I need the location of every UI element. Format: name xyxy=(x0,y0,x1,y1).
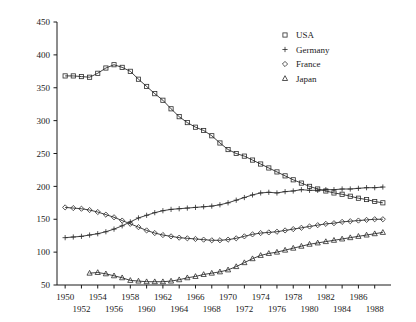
chart-legend: USAGermanyFranceJapan xyxy=(282,30,330,84)
x-tick-label: 1954 xyxy=(89,292,108,302)
legend-item-france[interactable]: France xyxy=(282,59,320,69)
y-tick-label: 50 xyxy=(41,280,51,290)
x-tick-label: 1960 xyxy=(138,304,157,314)
series-path xyxy=(65,187,383,238)
series-germany xyxy=(63,184,386,240)
series-japan xyxy=(87,230,385,284)
y-tick-label: 300 xyxy=(37,116,51,126)
y-tick-label: 200 xyxy=(37,182,51,192)
marker-square xyxy=(283,33,287,37)
y-tick-label: 350 xyxy=(37,83,51,93)
x-tick-label: 1974 xyxy=(252,292,271,302)
x-tick-label: 1976 xyxy=(268,304,287,314)
series-path xyxy=(90,232,383,281)
y-tick-label: 250 xyxy=(37,149,51,159)
x-tick-label: 1952 xyxy=(72,304,90,314)
x-tick-label: 1988 xyxy=(366,304,385,314)
x-tick-label: 1968 xyxy=(203,304,222,314)
legend-item-label: Japan xyxy=(296,74,317,84)
y-tick-label: 450 xyxy=(37,17,51,27)
series-path xyxy=(65,65,383,203)
x-tick-label: 1950 xyxy=(56,292,75,302)
marker-diamond xyxy=(282,61,287,66)
legend-item-usa[interactable]: USA xyxy=(283,30,315,40)
x-axis: 1950195219541956195819601962196419661968… xyxy=(56,285,391,314)
x-tick-label: 1980 xyxy=(301,304,320,314)
x-tick-label: 1984 xyxy=(333,304,352,314)
chart-canvas: 50100150200250300350400450 1950195219541… xyxy=(0,0,416,322)
legend-item-label: USA xyxy=(296,30,315,40)
x-tick-label: 1966 xyxy=(186,292,205,302)
marker-triangle xyxy=(282,76,287,81)
y-tick-label: 100 xyxy=(37,247,51,257)
legend-item-japan[interactable]: Japan xyxy=(282,74,317,84)
x-tick-label: 1982 xyxy=(317,292,335,302)
y-tick-label: 400 xyxy=(37,50,51,60)
y-axis: 50100150200250300350400450 xyxy=(37,17,58,290)
legend-item-label: France xyxy=(296,59,321,69)
series-path xyxy=(65,207,383,240)
line-chart: 50100150200250300350400450 1950195219541… xyxy=(0,0,416,322)
legend-item-germany[interactable]: Germany xyxy=(282,45,330,55)
x-tick-label: 1972 xyxy=(235,304,253,314)
x-tick-label: 1986 xyxy=(349,292,368,302)
series-france xyxy=(63,205,386,243)
x-tick-label: 1970 xyxy=(219,292,238,302)
marker-triangle xyxy=(380,230,385,235)
series-layer xyxy=(63,63,386,284)
x-tick-label: 1962 xyxy=(154,292,172,302)
y-tick-label: 150 xyxy=(37,214,51,224)
x-tick-label: 1958 xyxy=(121,292,140,302)
x-tick-label: 1964 xyxy=(170,304,189,314)
x-tick-label: 1978 xyxy=(284,292,303,302)
series-usa xyxy=(63,63,385,205)
legend-item-label: Germany xyxy=(296,45,330,55)
x-tick-label: 1956 xyxy=(105,304,124,314)
